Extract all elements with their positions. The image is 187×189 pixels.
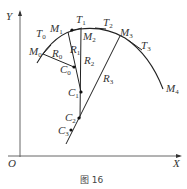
label-r2: R2 <box>83 54 95 68</box>
label-m3: M3 <box>119 26 133 40</box>
point-m1 <box>70 28 73 31</box>
radius-r1-line <box>68 32 81 92</box>
label-c3: C3 <box>58 124 69 138</box>
label-r3: R3 <box>102 72 114 86</box>
label-c2: C2 <box>65 111 76 125</box>
label-t3: T3 <box>141 39 151 53</box>
tangent-t3-arrow-icon <box>128 40 142 50</box>
label-m2: M2 <box>82 30 96 44</box>
point-c0 <box>72 65 75 68</box>
origin-label: O <box>8 157 16 169</box>
tangent-t0-arrow-icon <box>43 45 51 54</box>
point-c2 <box>77 116 80 119</box>
point-c1 <box>79 90 82 93</box>
label-m0: M0 <box>28 45 42 59</box>
label-r0: R0 <box>51 47 63 61</box>
label-m1: M1 <box>49 22 63 36</box>
label-t2: T2 <box>103 16 113 30</box>
radius-r2-line <box>80 29 81 118</box>
curvature-diagram: Y O X M0 M1 M2 M3 M4 T0 T1 T2 T3 R0 R1 R… <box>0 0 187 189</box>
label-t1: T1 <box>76 13 86 27</box>
y-axis-arrow-icon <box>18 10 22 16</box>
label-c1: C1 <box>68 86 79 100</box>
figure-caption: 图 16 <box>80 175 104 185</box>
x-axis-label: X <box>172 157 181 169</box>
point-c3 <box>69 128 72 131</box>
label-m4: M4 <box>165 82 179 96</box>
y-axis-label: Y <box>6 10 14 22</box>
label-t0: T0 <box>36 27 46 41</box>
axes <box>8 12 180 157</box>
label-r1: R1 <box>69 43 81 57</box>
